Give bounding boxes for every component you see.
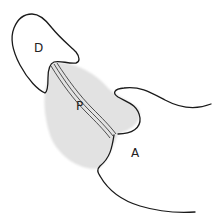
label-p: P [76, 99, 83, 113]
diagram-canvas: D P A [0, 0, 221, 222]
label-d: D [34, 41, 43, 55]
lobe-a-lower-outline [98, 135, 195, 212]
label-a: A [131, 146, 140, 160]
